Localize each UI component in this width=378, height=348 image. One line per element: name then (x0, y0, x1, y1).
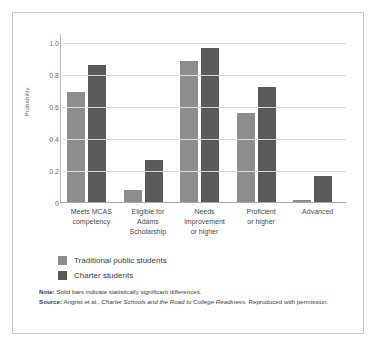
legend-swatch (58, 271, 67, 280)
note-text: Solid bars indicate statistically signif… (55, 288, 202, 295)
y-tick-label: 0 (55, 200, 59, 207)
gridline (63, 171, 346, 172)
bar[interactable] (258, 87, 276, 202)
bar[interactable] (145, 160, 163, 202)
category-label-line: or higher (230, 217, 292, 227)
source-line: Source: Angrist et al., Charter Schools … (39, 297, 351, 307)
bar-group (63, 34, 120, 202)
category-label-line: Needs (174, 207, 236, 217)
category-label-line: improvement (174, 217, 236, 227)
bar-group (176, 34, 233, 202)
gridline (63, 139, 346, 140)
gridline (63, 75, 346, 76)
category-label-line: Eligible for (117, 207, 179, 217)
source-post: . Reproduced with permission. (245, 298, 328, 305)
bar-group (120, 34, 177, 202)
chart-legend: Traditional public studentsCharter stude… (58, 253, 338, 283)
legend-label: Charter students (74, 271, 133, 280)
bar[interactable] (201, 48, 219, 202)
category-label-line: or higher (174, 227, 236, 237)
y-axis-tick-labels: 00.20.40.60.81.0 (37, 35, 59, 203)
figure-frame: Probability 00.20.40.60.81.0 Meets MCASc… (12, 12, 364, 334)
category-label-line: Proficient (230, 207, 292, 217)
bar[interactable] (293, 200, 311, 202)
bar[interactable] (314, 176, 332, 202)
source-pre: Angrist et al., (62, 298, 101, 305)
bar[interactable] (67, 92, 85, 202)
legend-item[interactable]: Traditional public students (58, 253, 338, 268)
plot-area: Probability 00.20.40.60.81.0 Meets MCASc… (13, 13, 365, 213)
bar-group (289, 34, 346, 202)
x-axis-line (60, 202, 346, 203)
y-tick-label: 1.0 (49, 40, 59, 47)
axes (63, 35, 346, 203)
category-label: Needsimprovementor higher (174, 207, 236, 237)
category-label-line: Adams (117, 217, 179, 227)
bar[interactable] (180, 61, 198, 202)
source-title: Charter Schools and the Road to College … (101, 298, 245, 305)
category-label: Proficientor higher (230, 207, 292, 227)
y-axis-label: Probability (24, 62, 30, 142)
category-label-line: Scholarship (117, 227, 179, 237)
category-label: Meets MCAScompetency (60, 207, 122, 227)
category-label: Eligible forAdamsScholarship (117, 207, 179, 237)
footnotes: Note: Solid bars indicate statistically … (39, 287, 351, 307)
y-tick-label: 0.4 (49, 136, 59, 143)
legend-label: Traditional public students (74, 256, 167, 265)
gridline (63, 43, 346, 44)
source-label: Source: (39, 298, 62, 305)
category-label-line: Advanced (287, 207, 349, 217)
bar[interactable] (124, 190, 142, 202)
y-tick-label: 0.8 (49, 72, 59, 79)
y-tick-label: 0.6 (49, 104, 59, 111)
category-label-line: Meets MCAS (60, 207, 122, 217)
bars-layer (63, 34, 346, 202)
category-label-line: competency (60, 217, 122, 227)
category-label: Advanced (287, 207, 349, 217)
note-label: Note: (39, 288, 55, 295)
y-tick-label: 0.2 (49, 168, 59, 175)
gridline (63, 107, 346, 108)
note-line: Note: Solid bars indicate statistically … (39, 287, 351, 297)
legend-swatch (58, 256, 67, 265)
bar[interactable] (237, 113, 255, 202)
bar[interactable] (88, 65, 106, 202)
bar-group (233, 34, 290, 202)
legend-item[interactable]: Charter students (58, 268, 338, 283)
x-axis-category-labels: Meets MCAScompetencyEligible forAdamsSch… (63, 207, 346, 253)
y-axis-line (60, 34, 61, 203)
